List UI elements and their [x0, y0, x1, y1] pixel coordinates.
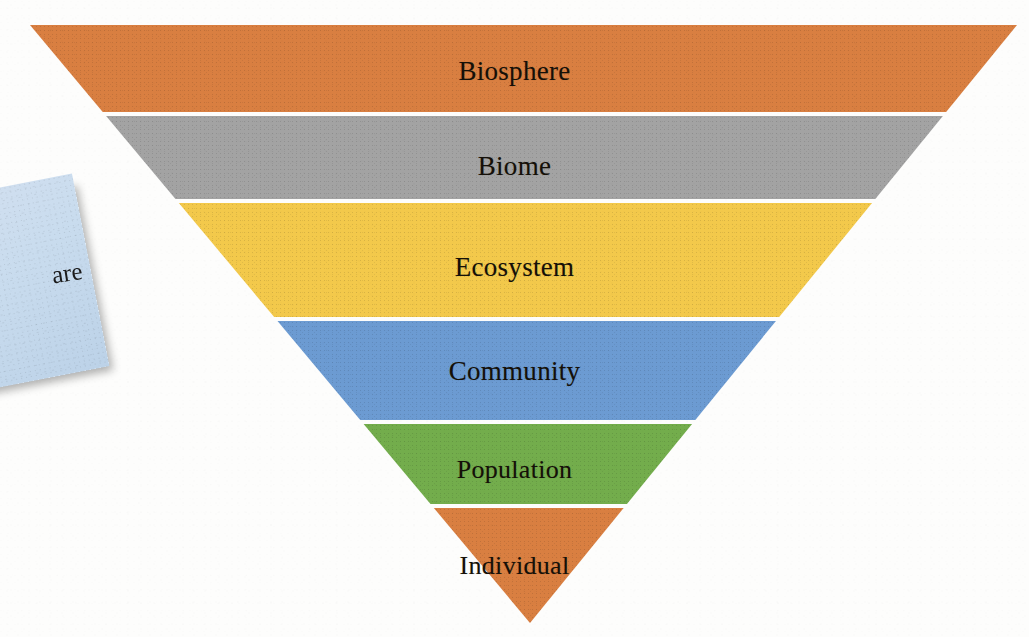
inverted-pyramid-diagram: Biosphere Biome Ecosystem Community Popu [0, 0, 1029, 637]
pyramid-band-biome[interactable]: Biome [0, 116, 1029, 199]
pyramid-band-biosphere[interactable]: Biosphere [0, 25, 1029, 112]
band-label-population: Population [0, 457, 1029, 483]
pyramid-band-individual[interactable]: Individual [0, 508, 1029, 623]
band-label-community: Community [0, 358, 1029, 385]
pyramid-band-population[interactable]: Population [0, 424, 1029, 504]
pyramid-band-community[interactable]: Community [0, 321, 1029, 420]
band-label-ecosystem: Ecosystem [0, 254, 1029, 281]
band-label-individual: Individual [0, 553, 1029, 579]
figure-canvas: Biosphere Biome Ecosystem Community Popu [0, 0, 1029, 637]
sticky-note-text: are [50, 258, 84, 287]
band-label-biome: Biome [0, 153, 1029, 180]
pyramid-band-ecosystem[interactable]: Ecosystem [0, 203, 1029, 317]
band-label-biosphere: Biosphere [0, 58, 1029, 85]
